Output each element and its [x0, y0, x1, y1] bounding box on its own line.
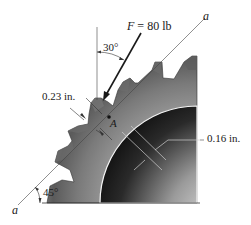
angle-30-label: 30°	[103, 42, 118, 53]
dim-section-label: 0.16 in.	[207, 133, 240, 144]
gear-diagram	[0, 0, 251, 225]
force-equals: =	[134, 19, 147, 33]
force-label: F = 80 lb	[127, 20, 171, 32]
dim-tooth-label: 0.23 in.	[42, 91, 75, 102]
line-label-bottom: a	[12, 204, 18, 216]
arrowhead-icon	[39, 198, 42, 203]
arrowhead-icon	[97, 51, 101, 54]
force-value: 80 lb	[147, 19, 171, 33]
angle-45-label: 45°	[43, 187, 58, 198]
line-label-top: a	[203, 10, 209, 22]
arrowhead-icon	[80, 113, 86, 119]
arrowhead-icon	[35, 187, 39, 191]
force-arrowhead-icon	[103, 91, 110, 101]
point-a-label: A	[110, 118, 117, 129]
